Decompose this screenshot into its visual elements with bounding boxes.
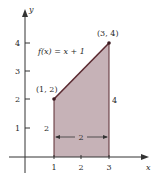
right-height-label: 4 [112,96,117,105]
x-tick-label-2: 2 [78,163,83,172]
x-axis-label: x [146,163,151,172]
area-under-line-chart: 1 2 3 1 2 3 4 x y f(x) = x + 1 (1, 2) (3… [0,0,158,182]
point-3-4 [107,41,111,45]
y-tick-label-4: 4 [15,39,20,48]
y-axis-label: y [28,5,34,14]
x-tick-label-3: 3 [106,163,111,172]
y-tick-label-3: 3 [15,67,20,76]
x-tick-label-1: 1 [51,163,56,172]
x-axis-arrow-icon [141,154,149,160]
point-1-2 [52,97,56,101]
y-tick-label-1: 1 [15,124,20,133]
point-label-3-4: (3, 4) [97,29,119,38]
y-axis-arrow-icon [22,9,28,17]
left-height-label: 2 [44,124,49,133]
point-label-1-2: (1, 2) [36,85,58,94]
function-label: f(x) = x + 1 [37,47,85,56]
y-tick-label-2: 2 [15,95,20,104]
width-label: 2 [78,133,83,142]
